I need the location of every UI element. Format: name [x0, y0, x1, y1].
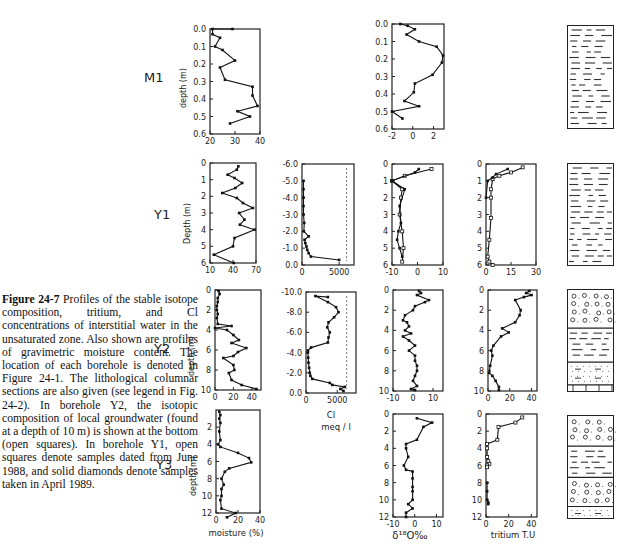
svg-text:-6.0: -6.0	[282, 160, 298, 169]
svg-text:0: 0	[299, 268, 304, 277]
lithology-column-y3	[567, 415, 614, 519]
chart-y1-moisture: 0123456104070	[210, 163, 256, 263]
svg-text:4: 4	[477, 444, 482, 453]
chart-y3-tritium: 02468101202040	[486, 414, 537, 517]
svg-text:0: 0	[412, 520, 417, 529]
svg-text:6: 6	[384, 462, 389, 471]
svg-text:40: 40	[526, 520, 536, 529]
svg-text:8: 8	[479, 367, 484, 376]
svg-text:0: 0	[384, 410, 389, 419]
svg-text:20: 20	[504, 520, 514, 529]
svg-text:0.0: 0.0	[375, 20, 388, 29]
svg-text:-10.0: -10.0	[281, 288, 302, 297]
lithology-column-y1	[567, 163, 614, 266]
lithology-column-m1	[567, 25, 614, 129]
svg-text:0: 0	[383, 160, 388, 169]
svg-text:6: 6	[206, 346, 211, 355]
svg-text:10: 10	[431, 520, 441, 529]
svg-text:0.4: 0.4	[375, 90, 388, 99]
svg-text:4: 4	[207, 440, 212, 449]
lithology-column-y2	[567, 289, 614, 392]
chart-y3-moisture: 2468101202040	[216, 410, 260, 513]
svg-text:0.0: 0.0	[193, 25, 206, 34]
svg-text:0.6: 0.6	[375, 125, 388, 134]
svg-text:-4.0: -4.0	[286, 349, 302, 358]
ylabel-m1: depth (m)	[176, 50, 190, 110]
svg-text:0: 0	[483, 520, 488, 529]
svg-text:-4.0: -4.0	[282, 194, 298, 203]
svg-text:0: 0	[303, 396, 308, 405]
svg-text:2: 2	[383, 194, 388, 203]
svg-text:Depth (m): Depth (m)	[183, 203, 192, 244]
svg-text:-6.0: -6.0	[286, 328, 302, 337]
svg-text:-3.0: -3.0	[282, 211, 298, 220]
svg-text:6: 6	[477, 462, 482, 471]
svg-text:3: 3	[201, 209, 206, 218]
ylabel-y1: Depth (m)	[180, 188, 194, 248]
svg-text:70: 70	[251, 266, 261, 275]
svg-text:10: 10	[202, 492, 212, 501]
row-label-y2: Y2	[154, 341, 170, 356]
xlabel-d18o: δ¹⁸O‰	[380, 530, 440, 541]
svg-text:10: 10	[428, 394, 438, 403]
svg-text:4: 4	[384, 444, 389, 453]
svg-text:1: 1	[201, 176, 206, 185]
xlabel-tritium: tritium T.U	[478, 530, 548, 540]
svg-text:-1.0: -1.0	[282, 244, 298, 253]
svg-text:0: 0	[479, 286, 484, 295]
svg-text:4: 4	[201, 226, 206, 235]
svg-text:1: 1	[477, 177, 482, 186]
svg-text:10: 10	[379, 496, 389, 505]
svg-text:0: 0	[477, 160, 482, 169]
svg-text:4: 4	[383, 227, 388, 236]
svg-text:20: 20	[233, 516, 243, 525]
xlabel-cl-unit: meq / l	[306, 422, 366, 432]
svg-text:5000: 5000	[327, 396, 347, 405]
svg-text:1: 1	[383, 177, 388, 186]
svg-text:40: 40	[228, 266, 238, 275]
svg-text:-5.0: -5.0	[282, 177, 298, 186]
svg-text:0.0: 0.0	[289, 389, 302, 398]
chart-y2-tritium: 024681002040	[488, 290, 537, 391]
svg-text:depth (m): depth (m)	[179, 68, 188, 108]
row-label-y3: Y3	[156, 457, 172, 472]
svg-text:5000: 5000	[329, 268, 349, 277]
svg-text:20: 20	[228, 393, 238, 402]
svg-text:6: 6	[479, 347, 484, 356]
xlabel-cl: Cl	[306, 410, 356, 420]
svg-text:2: 2	[206, 306, 211, 315]
svg-text:40: 40	[255, 516, 265, 525]
svg-text:0.1: 0.1	[193, 43, 206, 52]
svg-text:3: 3	[383, 211, 388, 220]
svg-text:10: 10	[205, 266, 215, 275]
svg-text:8: 8	[206, 366, 211, 375]
svg-text:6: 6	[207, 458, 212, 467]
svg-text:0: 0	[384, 286, 389, 295]
svg-text:30: 30	[531, 268, 541, 277]
svg-text:10: 10	[472, 496, 482, 505]
svg-text:40: 40	[255, 137, 265, 146]
svg-text:3: 3	[477, 211, 482, 220]
svg-text:4: 4	[206, 326, 211, 335]
svg-text:0: 0	[410, 394, 415, 403]
svg-text:-2.0: -2.0	[282, 227, 298, 236]
chart-y1-cl: 0.0-1.0-2.0-3.0-4.0-5.0-6.005000	[302, 164, 354, 265]
svg-text:0.3: 0.3	[375, 73, 388, 82]
svg-text:0.2: 0.2	[193, 60, 206, 69]
svg-text:-10: -10	[386, 520, 399, 529]
svg-text:40: 40	[247, 393, 257, 402]
svg-text:0.2: 0.2	[375, 55, 388, 64]
row-label-y1: Y1	[154, 207, 170, 222]
ylabel-y3: depth (m)	[186, 440, 200, 500]
svg-text:5: 5	[383, 244, 388, 253]
chart-y2-moisture: 024681002040	[215, 290, 261, 390]
svg-text:8: 8	[207, 475, 212, 484]
svg-text:4: 4	[477, 227, 482, 236]
svg-text:0: 0	[212, 393, 217, 402]
svg-text:0: 0	[415, 268, 420, 277]
svg-text:-10: -10	[385, 268, 398, 277]
svg-text:0: 0	[201, 159, 206, 168]
svg-text:2: 2	[477, 427, 482, 436]
svg-text:depth (m): depth (m)	[187, 336, 196, 376]
chart-y1-tritium: 012345601530	[486, 164, 536, 265]
